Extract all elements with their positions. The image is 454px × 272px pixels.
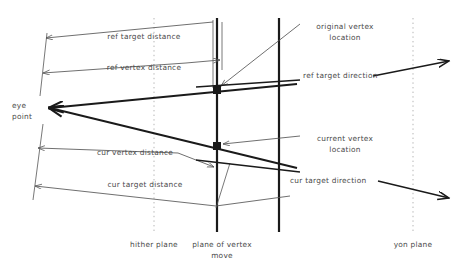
label-plane-of-vertex-move-line1: plane of vertex	[192, 240, 252, 251]
cur-target-direction-arrow	[378, 181, 449, 198]
left-measure-guide-top	[40, 33, 47, 96]
ref-vertex-distance-arrow-right	[186, 60, 220, 63]
original-vertex-marker	[213, 86, 221, 94]
current-vertex-marker	[213, 142, 221, 150]
label-original-vertex-location: original vertex location	[316, 22, 373, 43]
label-cur-target-direction: cur target direction	[290, 176, 366, 187]
label-hither-plane: hither plane	[130, 240, 178, 251]
original-vertex-leader	[221, 24, 300, 86]
label-original-vertex-line2: location	[316, 33, 373, 44]
diagram-canvas	[0, 0, 454, 272]
label-cur-vertex-distance: cur vertex distance	[97, 148, 173, 159]
current-vertex-leader	[223, 136, 300, 144]
vertex-move-diagram: ref target distance ref vertex distance …	[0, 0, 454, 272]
label-current-vertex-location: current vertex location	[317, 134, 373, 155]
label-plane-of-vertex-move: plane of vertex move	[192, 240, 252, 261]
label-eye-point-line1: eye	[12, 101, 32, 112]
label-cur-target-distance: cur target distance	[107, 180, 182, 191]
label-ref-vertex-distance: ref vertex distance	[107, 63, 181, 74]
cur-target-distance-guide	[216, 163, 230, 208]
label-ref-target-distance: ref target distance	[107, 32, 180, 43]
label-original-vertex-line1: original vertex	[316, 22, 373, 33]
cur-target-ray	[50, 108, 297, 168]
ref-target-ray	[50, 84, 297, 108]
left-measure-guide-bottom	[33, 124, 43, 200]
ref-target-direction-arrow	[373, 61, 449, 76]
label-current-vertex-line1: current vertex	[317, 134, 373, 145]
label-ref-target-direction: ref target direction	[303, 71, 378, 82]
label-plane-of-vertex-move-line2: move	[192, 251, 252, 262]
label-current-vertex-line2: location	[317, 145, 373, 156]
label-eye-point: eye point	[12, 101, 32, 122]
label-yon-plane: yon plane	[394, 240, 433, 251]
label-eye-point-line2: point	[12, 112, 32, 123]
